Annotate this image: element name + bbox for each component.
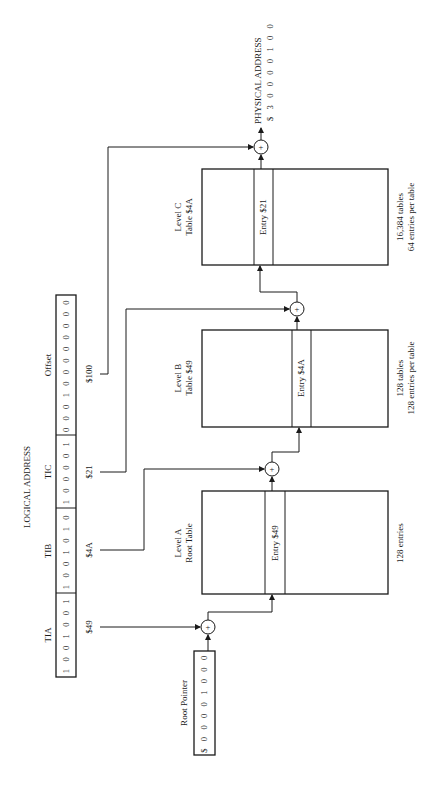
- logical-address: LOGICAL ADDRESS TIA TIB TIC Offset 1 0 0…: [22, 295, 94, 677]
- level-c-entry: Entry $21: [258, 199, 268, 235]
- field-value-tib: $4A: [84, 542, 94, 558]
- level-c-title-line2: Table $4A: [184, 198, 194, 236]
- level-b-title-line2: Table $49: [184, 360, 194, 396]
- plus-icon: +: [270, 464, 275, 474]
- physical-address: PHYSICAL ADDRESS $ 3 0 0 0 0 1 0 0: [253, 22, 275, 124]
- field-label-tia: TIA: [43, 627, 53, 642]
- field-label-tib: TIB: [43, 544, 53, 559]
- level-b-entry: Entry $4A: [296, 359, 306, 397]
- adder-root: +: [201, 620, 215, 634]
- level-a-title-line1: Level A: [173, 528, 183, 557]
- level-a-table: Level A Root Table Entry $49 128 entries: [173, 491, 405, 594]
- level-c-note-line2: 64 entries per table: [406, 183, 416, 252]
- field-bits-tib: 1 0 0 1 0 1 0: [61, 513, 71, 589]
- level-c-title-line1: Level C: [173, 203, 183, 232]
- logical-address-title: LOGICAL ADDRESS: [22, 446, 32, 528]
- field-value-offset: $100: [84, 365, 94, 384]
- root-pointer: Root Pointer $ 0 0 0 0 1 0 0 0: [179, 651, 215, 755]
- level-c-note-line1: 16,384 tables: [395, 193, 405, 241]
- plus-icon: +: [295, 304, 300, 314]
- arrow-adder-to-level-a: [208, 595, 272, 620]
- adder-level-a: +: [265, 462, 279, 476]
- physical-address-title: PHYSICAL ADDRESS: [253, 38, 263, 124]
- field-label-tic: TIC: [43, 465, 53, 480]
- arrow-adder-to-level-b: [272, 428, 299, 462]
- level-c-table: Level C Table $4A Entry $21 16,384 table…: [173, 169, 416, 265]
- level-b-note-line1: 128 tables: [395, 359, 405, 396]
- adder-level-b: +: [290, 302, 304, 316]
- root-pointer-value: $ 0 0 0 0 1 0 0 0: [199, 653, 209, 752]
- level-b-note-line2: 128 entries per table: [406, 341, 416, 414]
- field-value-tic: $21: [84, 465, 94, 479]
- root-pointer-label: Root Pointer: [179, 680, 189, 726]
- level-a-note-line1: 128 entries: [395, 523, 405, 563]
- adder-level-c: +: [254, 140, 268, 154]
- level-b-table: Level B Table $49 Entry $4A 128 tables 1…: [173, 330, 416, 427]
- physical-address-value: $ 3 0 0 0 0 1 0 0: [265, 22, 275, 121]
- address-translation-diagram: LOGICAL ADDRESS TIA TIB TIC Offset 1 0 0…: [0, 0, 430, 787]
- arrow-adder-to-level-c: [260, 266, 297, 302]
- field-value-tia: $49: [84, 620, 94, 634]
- level-a-title-line2: Root Table: [184, 523, 194, 562]
- plus-icon: +: [259, 142, 264, 152]
- field-bits-tic: 1 0 0 0 0 1: [61, 440, 71, 505]
- field-bits-tia: 1 0 0 1 0 0 1: [61, 597, 71, 673]
- field-label-offset: Offset: [43, 353, 53, 376]
- level-b-box: [202, 330, 388, 427]
- level-a-entry: Entry $49: [270, 525, 280, 561]
- level-b-title-line1: Level B: [173, 364, 183, 393]
- field-bits-offset: 0 0 0 1 0 0 0 0 0 0 0 0: [61, 298, 71, 432]
- plus-icon: +: [206, 622, 211, 632]
- level-a-box: [202, 491, 388, 594]
- level-c-box: [202, 169, 388, 265]
